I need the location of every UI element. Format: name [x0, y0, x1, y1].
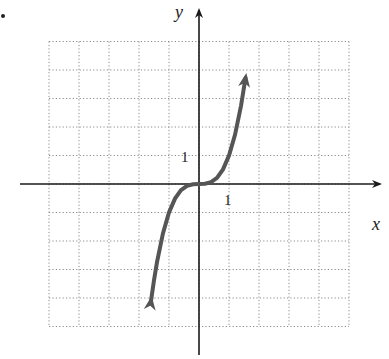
x-tick-label: 1 [224, 192, 232, 208]
cubic-function-graph: x y 1 1 [0, 0, 389, 359]
stray-dot [1, 14, 5, 18]
y-axis-label: y [173, 2, 183, 22]
y-tick-label: 1 [181, 149, 189, 165]
axes: x y 1 1 [20, 2, 380, 355]
x-axis-label: x [371, 214, 380, 234]
